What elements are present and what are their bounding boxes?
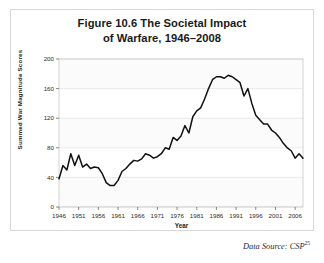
- x-axis-title: Year: [59, 222, 304, 229]
- y-tick-label: 80: [47, 144, 54, 151]
- y-axis-title: Summed War Magnitude Scores: [16, 45, 23, 155]
- y-tick-label: 0: [51, 203, 55, 210]
- y-tick-label: 160: [44, 85, 55, 92]
- x-tick-label: 1961: [111, 212, 125, 219]
- x-tick-label: 1991: [229, 212, 243, 219]
- x-tick-label: 1996: [249, 212, 263, 219]
- plot-band: [59, 177, 303, 207]
- x-tick-label: 1971: [151, 212, 165, 219]
- y-tick-label: 200: [44, 55, 55, 62]
- x-tick-label: 1956: [91, 212, 105, 219]
- y-tick-label: 40: [47, 174, 54, 181]
- x-tick-label: 2001: [269, 212, 283, 219]
- y-tick-label: 120: [44, 114, 55, 121]
- plot-band: [59, 118, 303, 148]
- x-tick-label: 1966: [131, 212, 145, 219]
- x-tick-label: 2006: [288, 212, 302, 219]
- data-source-label: Data Source: CSP: [243, 242, 305, 251]
- x-tick-label: 1951: [72, 212, 86, 219]
- plot-wrapper: 0408012016020019461951195619611966197119…: [0, 0, 324, 263]
- data-source-note: Data Source: CSP25: [243, 240, 310, 251]
- data-source-superscript: 25: [305, 240, 310, 246]
- figure-container: Figure 10.6 The Societal Impact of Warfa…: [0, 0, 324, 263]
- x-tick-label: 1981: [190, 212, 204, 219]
- x-tick-label: 1986: [210, 212, 224, 219]
- x-tick-label: 1976: [170, 212, 184, 219]
- plot-band: [59, 59, 303, 89]
- x-tick-label: 1946: [52, 212, 66, 219]
